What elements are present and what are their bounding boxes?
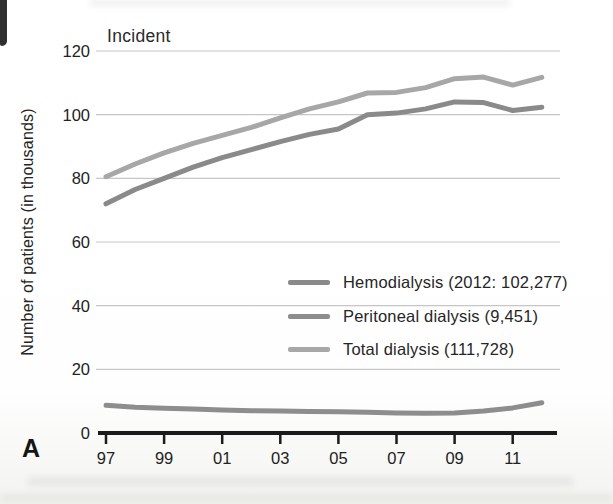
scan-smudge bbox=[0, 493, 613, 503]
y-tick-label-80: 80 bbox=[72, 169, 90, 187]
legend-swatch-hemodialysis-icon bbox=[288, 280, 330, 285]
scan-smudge bbox=[28, 477, 573, 486]
panel-label-a: A bbox=[22, 434, 40, 463]
scan-gutter-shadow bbox=[0, 0, 7, 46]
x-tick-label-07: 07 bbox=[387, 449, 405, 467]
y-tick-label-40: 40 bbox=[72, 297, 90, 315]
chart-title: Incident bbox=[107, 26, 171, 47]
scan-smudge bbox=[90, 0, 510, 6]
series-line-peritoneal-dialysis bbox=[106, 403, 542, 414]
y-tick-label-120: 120 bbox=[62, 42, 90, 60]
x-tick-label-99: 99 bbox=[155, 449, 173, 467]
x-tick-label-09: 09 bbox=[445, 449, 463, 467]
legend-label-hemodialysis: Hemodialysis (2012: 102,277) bbox=[343, 273, 568, 292]
x-tick-label-97: 97 bbox=[97, 449, 115, 467]
legend-swatch-total-dialysis-icon bbox=[288, 347, 330, 352]
y-axis-title: Number of patients (in thousands) bbox=[19, 108, 37, 356]
series-line-total-dialysis bbox=[106, 77, 542, 177]
x-tick-label-03: 03 bbox=[271, 449, 289, 467]
legend-label-peritoneal-dialysis: Peritoneal dialysis (9,451) bbox=[343, 307, 538, 326]
incident-dialysis-line-chart: 0204060801001209799010305070911 bbox=[0, 0, 613, 504]
x-tick-label-05: 05 bbox=[329, 449, 347, 467]
legend-item-total-dialysis: Total dialysis (111,728) bbox=[288, 333, 588, 367]
legend: Hemodialysis (2012: 102,277) Peritoneal … bbox=[288, 266, 588, 367]
y-tick-label-60: 60 bbox=[72, 233, 90, 251]
y-tick-label-100: 100 bbox=[62, 106, 90, 124]
legend-item-hemodialysis: Hemodialysis (2012: 102,277) bbox=[288, 266, 588, 300]
x-tick-label-01: 01 bbox=[213, 449, 231, 467]
x-tick-label-11: 11 bbox=[504, 449, 521, 467]
y-tick-label-0: 0 bbox=[81, 424, 90, 442]
legend-label-total-dialysis: Total dialysis (111,728) bbox=[343, 340, 514, 359]
y-tick-label-20: 20 bbox=[72, 360, 90, 378]
legend-swatch-peritoneal-dialysis-icon bbox=[288, 314, 330, 319]
legend-item-peritoneal-dialysis: Peritoneal dialysis (9,451) bbox=[288, 300, 588, 334]
scanned-figure-panel-a: 0204060801001209799010305070911 Incident… bbox=[0, 0, 613, 504]
